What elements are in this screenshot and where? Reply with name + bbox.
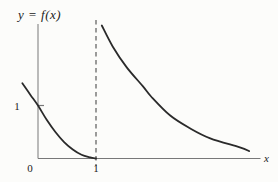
graph-title: y = f(x) [16,7,61,22]
origin-label: 0 [27,162,33,174]
y-tick-label: 1 [14,100,20,112]
x-axis-label: x [263,152,269,164]
figure-container: 101y = f(x)x [0,0,278,182]
figure-background [0,0,278,182]
function-plot: 101y = f(x)x [0,0,278,182]
x-tick-label: 1 [93,162,99,174]
